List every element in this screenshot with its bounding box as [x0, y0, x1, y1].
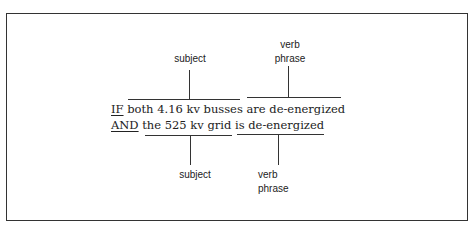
bottom-verb-phrase-label: verb phrase [258, 168, 298, 196]
top-verb-connector [288, 66, 289, 97]
bottom-verb-label-line1: verb [258, 168, 298, 182]
top-verb-bracket [247, 97, 341, 98]
sentence-line-1: IF both 4.16 kv busses are de-energized [111, 101, 345, 117]
top-verb-label-line2: phrase [260, 52, 320, 66]
top-subject-connector [189, 70, 190, 99]
bottom-subject-label: subject [165, 168, 225, 182]
top-subject-label: subject [160, 52, 220, 66]
bottom-subject-connector [190, 135, 191, 165]
top-verb-phrase-label: verb phrase [260, 38, 320, 66]
top-verb-label-line1: verb [260, 38, 320, 52]
keyword-if: IF [111, 102, 124, 116]
sentence-line-2-text: the 525 kv grid is de-energized [139, 118, 325, 132]
keyword-and: AND [111, 118, 139, 132]
bottom-verb-label-line2: phrase [258, 182, 298, 196]
sentence-line-1-text: both 4.16 kv busses are de-energized [124, 102, 346, 116]
bottom-verb-connector [278, 134, 279, 165]
sentence-line-2: AND the 525 kv grid is de-energized [111, 117, 324, 133]
bottom-verb-bracket [237, 134, 324, 135]
top-subject-bracket [128, 99, 240, 100]
bottom-subject-bracket [145, 135, 232, 136]
